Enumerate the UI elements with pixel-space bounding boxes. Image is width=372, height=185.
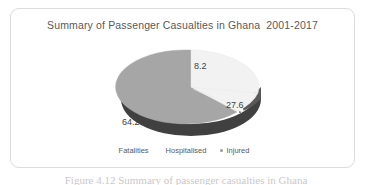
- chart-frame: Summary of Passenger Casualties in Ghana…: [10, 8, 355, 168]
- legend-item-injured[interactable]: Injured: [220, 146, 249, 155]
- legend-item-hospitalised[interactable]: Hospitalised: [163, 146, 207, 155]
- legend-label-injured: Injured: [226, 146, 249, 155]
- legend-label-fatalities: Fatalities: [119, 146, 149, 155]
- legend-item-fatalities[interactable]: Fatalities: [116, 146, 149, 155]
- pie-chart-svg: [11, 31, 356, 141]
- data-label-injured: 8.2: [194, 61, 207, 71]
- legend-label-hospitalised: Hospitalised: [166, 146, 207, 155]
- chart-legend: Fatalities Hospitalised Injured: [11, 146, 354, 155]
- pie-slice-hospitalised-upper[interactable]: [191, 50, 259, 93]
- figure-caption: Figure 4.12 Summary of passenger casualt…: [0, 174, 372, 185]
- chart-title: Summary of Passenger Casualties in Ghana…: [11, 19, 354, 31]
- legend-swatch-injured-icon: [220, 149, 223, 152]
- pie-chart: 8.2 27.6 64.2: [11, 31, 356, 141]
- data-label-fatalities: 64.2: [122, 117, 140, 127]
- data-label-hospitalised: 27.6: [226, 100, 244, 110]
